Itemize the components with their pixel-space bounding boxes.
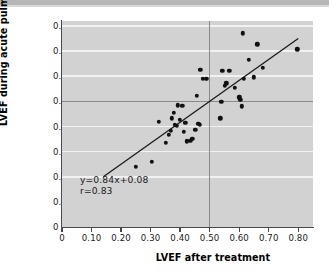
x-axis-tick-label: 0.60 xyxy=(229,233,249,243)
x-axis-line xyxy=(61,227,314,228)
x-axis-tick-label: 0.40 xyxy=(170,233,190,243)
x-axis-tick xyxy=(179,228,180,232)
x-axis-tick-label: 0.20 xyxy=(111,233,131,243)
x-axis-title: LVEF after treatment xyxy=(156,252,270,263)
x-axis-tick-label: 0.30 xyxy=(141,233,161,243)
figure-scatter-lvef: LVEF during acute pulmonary oedema LVEF … xyxy=(0,0,329,273)
x-axis-tick xyxy=(268,228,269,232)
x-axis-tick-label: 0.70 xyxy=(259,233,279,243)
header-rule-secondary xyxy=(0,5,329,7)
x-axis-tick-label: 0.50 xyxy=(200,233,220,243)
y-axis-tick-label: 0.10 xyxy=(53,197,57,207)
x-axis-tick xyxy=(209,228,210,232)
y-axis-tick-label: 0.30 xyxy=(53,147,57,157)
plot-area: y=0.84x+0.08 r=0.83 xyxy=(62,21,313,227)
x-axis-tick xyxy=(150,228,151,232)
x-axis-tick xyxy=(91,228,92,232)
x-axis-tick-label: 0 xyxy=(59,233,65,243)
y-axis-tick-label: 0.40 xyxy=(53,122,57,132)
y-axis-tick-label: 0.20 xyxy=(53,172,57,182)
annotation-equation: y=0.84x+0.08 xyxy=(80,174,148,185)
annotation-correlation: r=0.83 xyxy=(80,185,148,196)
x-axis-tick xyxy=(298,228,299,232)
y-axis-tick-label: 0.80 xyxy=(53,21,57,31)
y-axis-tick-label: 0.70 xyxy=(53,46,57,56)
x-axis-tick xyxy=(120,228,121,232)
y-axis-title: LVEF during acute pulmonary oedema xyxy=(0,0,9,126)
x-axis-tick xyxy=(239,228,240,232)
x-axis-tick-label: 0.10 xyxy=(82,233,102,243)
y-axis-tick-label: 0.60 xyxy=(53,71,57,81)
y-axis-tick-label: 0 xyxy=(53,222,57,232)
x-axis-tick xyxy=(61,228,62,232)
y-axis-tick-label: 0.50 xyxy=(53,96,57,106)
x-axis-tick-label: 0.80 xyxy=(288,233,308,243)
